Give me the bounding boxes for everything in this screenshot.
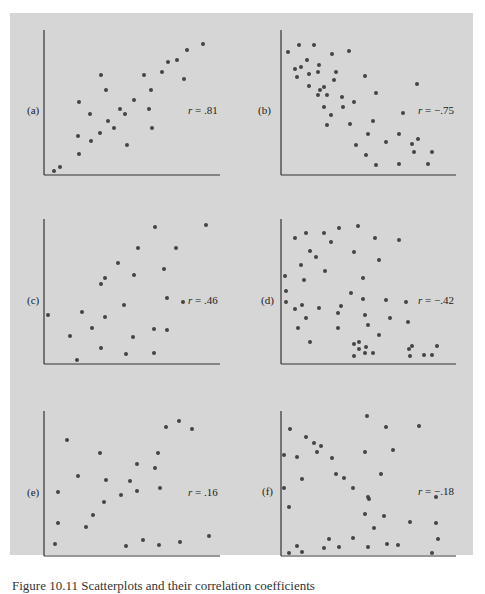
data-point <box>330 52 334 56</box>
data-point <box>416 137 420 141</box>
data-point <box>158 486 162 490</box>
data-point <box>388 316 392 320</box>
scatterplot-e: (e)r = .16 <box>0 380 245 570</box>
data-point <box>53 542 57 546</box>
data-point <box>160 70 164 74</box>
data-point <box>323 269 327 273</box>
data-point <box>430 353 434 357</box>
data-point <box>157 543 161 547</box>
data-point <box>401 111 405 115</box>
scatterplot-b: (b)r = −.75 <box>240 0 485 190</box>
data-point <box>153 225 157 229</box>
data-point <box>417 424 421 428</box>
data-point <box>56 521 60 525</box>
data-point <box>351 536 355 540</box>
data-point <box>363 450 367 454</box>
scatter-plot-area <box>240 190 485 380</box>
data-point <box>118 107 122 111</box>
data-point <box>77 100 81 104</box>
panel-label: (f) <box>262 485 273 497</box>
data-point <box>76 474 80 478</box>
data-point <box>365 414 369 418</box>
data-point <box>89 139 93 143</box>
data-point <box>366 132 370 136</box>
data-point <box>293 236 297 240</box>
data-point <box>341 105 345 109</box>
data-point <box>316 70 320 74</box>
data-point <box>181 300 185 304</box>
data-point <box>322 546 326 550</box>
data-point <box>104 478 108 482</box>
correlation-annotation: r = −.42 <box>418 294 454 306</box>
data-point <box>174 246 178 250</box>
data-point <box>329 240 333 244</box>
data-point <box>404 300 408 304</box>
data-point <box>103 276 107 280</box>
data-point <box>128 479 132 483</box>
data-point <box>65 438 69 442</box>
data-point <box>322 231 326 235</box>
data-point <box>76 134 80 138</box>
data-point <box>364 345 368 349</box>
data-point <box>132 273 136 277</box>
data-point <box>366 545 370 549</box>
data-point <box>149 88 153 92</box>
data-point <box>91 513 95 517</box>
data-point <box>98 451 102 455</box>
data-point <box>356 224 360 228</box>
data-point <box>317 306 321 310</box>
data-point <box>300 550 304 554</box>
data-point <box>178 540 182 544</box>
data-point <box>318 88 322 92</box>
scatter-plot-area <box>0 380 245 570</box>
data-point <box>293 67 297 71</box>
data-point <box>175 58 179 62</box>
data-point <box>319 444 323 448</box>
data-point <box>302 278 306 282</box>
data-point <box>352 100 356 104</box>
data-point <box>363 74 367 78</box>
data-point <box>52 169 56 173</box>
data-point <box>185 48 189 52</box>
scatter-plot-area <box>240 0 485 190</box>
data-point <box>99 73 103 77</box>
data-point <box>397 132 401 136</box>
scatterplot-d: (d)r = −.42 <box>240 190 485 380</box>
data-point <box>408 520 412 524</box>
scatterplot-a: (a)r = .81 <box>0 0 245 190</box>
data-point <box>334 472 338 476</box>
data-point <box>316 93 320 97</box>
data-point <box>377 333 381 337</box>
scatter-plot-area <box>0 190 245 380</box>
data-point <box>99 282 103 286</box>
data-point <box>312 43 316 47</box>
data-point <box>84 525 88 529</box>
correlation-annotation: r = −.18 <box>418 485 454 497</box>
data-point <box>436 537 440 541</box>
data-point <box>295 75 299 79</box>
data-point <box>412 150 416 154</box>
data-point <box>119 493 123 497</box>
data-point <box>124 352 128 356</box>
data-point <box>293 307 297 311</box>
data-point <box>98 131 102 135</box>
correlation-annotation: r = .46 <box>188 294 218 306</box>
data-point <box>288 427 292 431</box>
data-point <box>364 153 368 157</box>
data-point <box>351 486 355 490</box>
data-point <box>407 347 411 351</box>
data-point <box>104 88 108 92</box>
data-point <box>124 544 128 548</box>
data-point <box>352 250 356 254</box>
data-point <box>147 107 151 111</box>
data-point <box>410 142 414 146</box>
data-point <box>204 223 208 227</box>
data-point <box>164 425 168 429</box>
data-point <box>422 353 426 357</box>
data-point <box>190 427 194 431</box>
data-point <box>317 63 321 67</box>
data-point <box>125 143 129 147</box>
data-point <box>308 340 312 344</box>
data-point <box>56 490 60 494</box>
data-point <box>102 500 106 504</box>
